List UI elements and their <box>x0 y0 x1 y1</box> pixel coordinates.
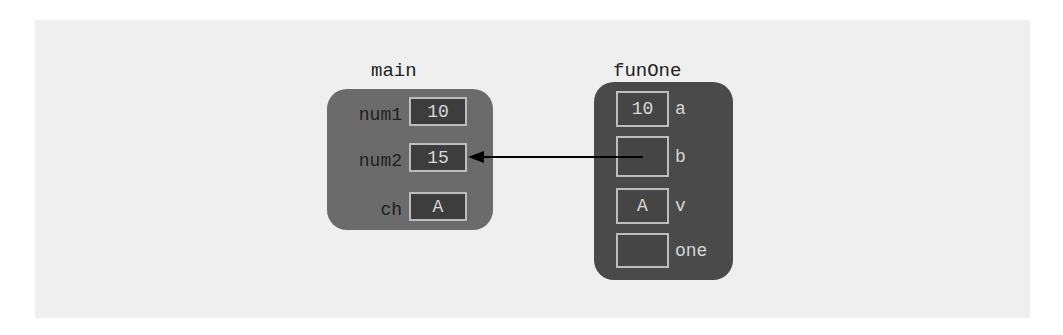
var-label-one: one <box>675 241 707 261</box>
frame-funone: 10 a b A v one <box>594 82 733 280</box>
diagram-canvas: main num1 10 num2 15 ch A funOne 10 a b … <box>0 0 1063 335</box>
var-label-num1: num1 <box>332 105 402 125</box>
frame-main: num1 10 num2 15 ch A <box>327 89 493 230</box>
var-label-v: v <box>675 196 686 216</box>
value-cell-b <box>616 136 669 177</box>
var-label-num2: num2 <box>332 151 402 171</box>
frame-title-main: main <box>371 61 417 81</box>
var-label-b: b <box>675 147 686 167</box>
var-label-a: a <box>675 99 686 119</box>
value-cell-a: 10 <box>616 91 669 127</box>
value-cell-num1: 10 <box>409 97 467 126</box>
value-cell-v: A <box>616 188 669 224</box>
frame-title-funone: funOne <box>613 61 681 81</box>
background-panel <box>35 20 1030 318</box>
value-cell-ch: A <box>409 192 467 221</box>
value-cell-one <box>616 233 669 268</box>
var-label-ch: ch <box>332 200 402 220</box>
value-cell-num2: 15 <box>409 143 467 172</box>
